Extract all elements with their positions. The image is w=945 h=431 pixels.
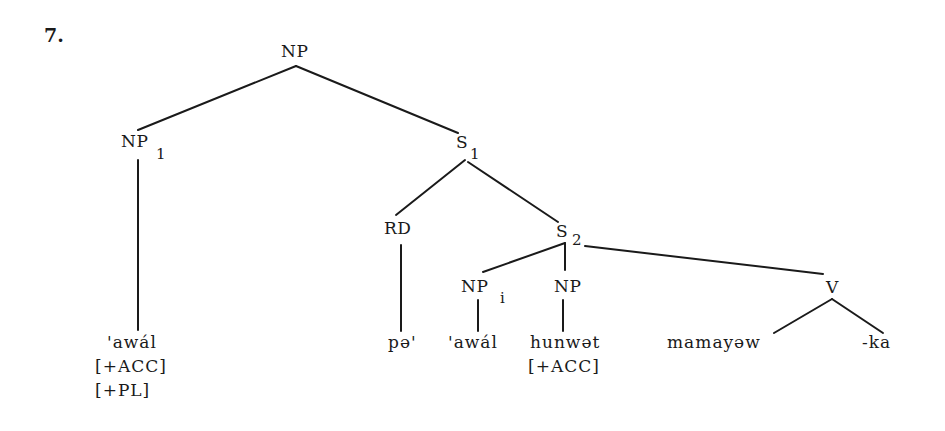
- node-v: V: [826, 277, 839, 297]
- leaf-np1-word: 'awál: [107, 331, 157, 353]
- node-np-i: NP: [461, 276, 488, 296]
- edge-s2-npi: [483, 243, 565, 272]
- edge-s1-rd: [396, 160, 465, 215]
- edge-v-stem: [774, 299, 832, 333]
- leaf-np-i-word: 'awál: [448, 331, 498, 353]
- node-s2: S: [556, 221, 568, 241]
- node-np-i-subscript: i: [500, 289, 505, 307]
- leaf-np1-feature-pl: [+PL]: [95, 379, 150, 401]
- leaf-v-stem: mamayəw: [667, 331, 761, 353]
- edge-np-s1: [296, 66, 458, 133]
- edge-s1-s2: [468, 162, 558, 222]
- node-rd: RD: [384, 218, 411, 238]
- node-s1: S: [456, 132, 468, 152]
- node-s2-subscript: 2: [572, 231, 582, 249]
- edge-s2-v: [585, 246, 823, 274]
- edge-v-suffix: [832, 299, 883, 333]
- node-np-root: NP: [281, 41, 308, 61]
- node-np1-subscript: 1: [156, 145, 166, 163]
- edge-np-np1: [138, 66, 296, 130]
- leaf-np1-feature-acc: [+ACC]: [95, 355, 167, 377]
- leaf-np-object-feature-acc: [+ACC]: [528, 355, 600, 377]
- node-s1-subscript: 1: [470, 145, 480, 163]
- leaf-v-suffix: -ka: [862, 331, 891, 353]
- leaf-rd-word: pə': [388, 331, 417, 353]
- node-np-object: NP: [554, 276, 581, 296]
- leaf-np-object-word: hunwət: [530, 331, 600, 353]
- example-number: 7.: [44, 24, 64, 46]
- node-np1: NP: [121, 131, 148, 151]
